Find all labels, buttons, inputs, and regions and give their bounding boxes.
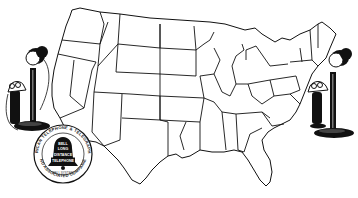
bell-text-line-3: DISTANCE (54, 153, 73, 157)
candlestick-telephone-left (6, 46, 50, 131)
bell-text-line-1: BELL (58, 142, 68, 146)
bell-text-line-4: TELEPHONE (52, 159, 75, 163)
emblem-caption: BELL SYSTEM (53, 171, 74, 175)
bell-text-line-2: LONG (58, 147, 69, 151)
vintage-bell-system-map: AMERICAN TELEPHONE & TELEGRAPH CO. AND A… (0, 0, 358, 198)
us-map-illustration: AMERICAN TELEPHONE & TELEGRAPH CO. AND A… (0, 0, 358, 198)
